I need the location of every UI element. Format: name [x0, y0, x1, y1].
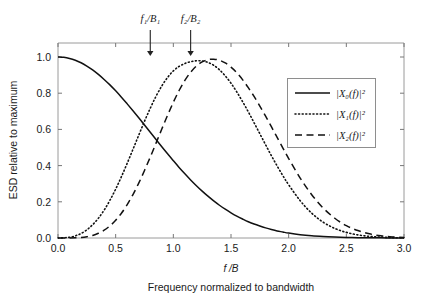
y-tick-label: 0.0: [36, 232, 51, 244]
legend-label: |X₀(f)|²: [336, 88, 366, 100]
x-tick-label: 1.0: [166, 242, 181, 254]
x-tick-label: 2.0: [281, 242, 296, 254]
x-axis-title: f /B: [223, 263, 238, 274]
y-tick-label: 0.8: [36, 87, 51, 99]
x-tick-label: 0.5: [108, 242, 123, 254]
x-tick-label: 0.0: [51, 242, 66, 254]
y-axis-title: ESD relative to maximum: [7, 81, 19, 200]
y-tick-label: 0.4: [36, 160, 51, 172]
legend-label: |X₁(f)|²: [336, 109, 366, 121]
y-tick-label: 0.6: [36, 123, 51, 135]
chart-caption: Frequency normalized to bandwidth: [148, 281, 315, 293]
annotation-label: f₂/B₂: [181, 13, 201, 24]
y-tick-label: 1.0: [36, 51, 51, 63]
y-tick-label: 0.2: [36, 196, 51, 208]
legend-label: |X₂(f)|²: [336, 130, 366, 142]
annotation-label: f₁/B₁: [140, 13, 160, 24]
chart-figure: 0.00.51.01.52.02.53.0 0.00.20.40.60.81.0…: [0, 0, 430, 297]
chart-legend: |X₀(f)|²|X₁(f)|²|X₂(f)|²: [288, 79, 376, 148]
x-tick-label: 2.5: [339, 242, 354, 254]
esd-spectrum-chart: 0.00.51.01.52.02.53.0 0.00.20.40.60.81.0…: [0, 0, 430, 297]
x-tick-label: 3.0: [397, 242, 412, 254]
x-tick-label: 1.5: [224, 242, 239, 254]
